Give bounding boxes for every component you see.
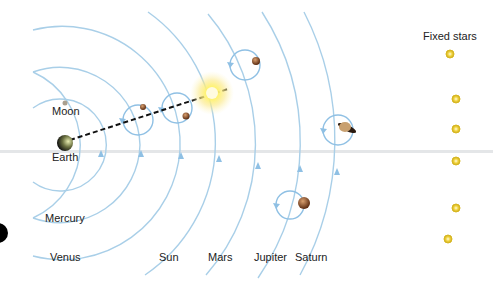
sun-label: Sun	[159, 251, 179, 263]
mars-icon	[252, 57, 260, 65]
moon-label: Moon	[52, 105, 80, 117]
star-icon	[452, 125, 460, 133]
earth-icon	[57, 135, 73, 151]
mercury-icon	[140, 104, 146, 110]
star-icon	[444, 235, 452, 243]
star-icon	[452, 204, 460, 212]
mars-epicycle	[230, 50, 260, 80]
saturn-label: Saturn	[295, 251, 327, 263]
mars-label: Mars	[208, 251, 232, 263]
mars-orbit	[206, 14, 255, 275]
fixed-stars	[444, 50, 460, 243]
saturn-orbit	[300, 12, 335, 275]
diagram-canvas	[0, 0, 493, 290]
edge-marker	[0, 223, 8, 243]
earth-label: Earth	[52, 151, 78, 163]
saturn-icon	[337, 121, 358, 135]
jupiter-orbit	[258, 12, 300, 278]
mercury-orbit	[33, 67, 140, 222]
fixed-stars-label: Fixed stars	[423, 30, 477, 42]
venus-label: Venus	[50, 251, 81, 263]
jupiter-label: Jupiter	[254, 251, 287, 263]
mercury-label: Mercury	[45, 212, 85, 224]
star-icon	[446, 50, 454, 58]
orbit-lines	[33, 12, 335, 278]
venus-icon	[183, 113, 190, 120]
jupiter-icon	[298, 197, 310, 209]
star-icon	[452, 95, 460, 103]
star-icon	[452, 157, 460, 165]
